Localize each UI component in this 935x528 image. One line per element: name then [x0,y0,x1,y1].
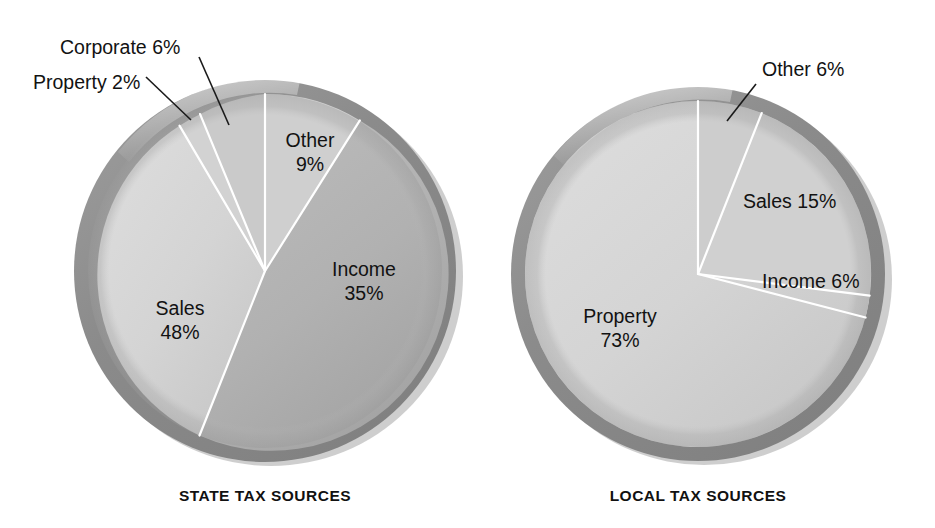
left-label-sales-value: 48% [160,321,199,343]
right-chart-title: LOCAL TAX SOURCES [610,487,787,504]
left-label-other-name: Other [286,129,335,151]
right-label-sales: Sales 15% [743,190,836,212]
two-pie-chart-figure: Other 9% Income 35% Sales 48% Corporate … [0,0,935,528]
left-callout-property-label: Property 2% [33,71,140,93]
right-pie-chart: Sales 15% Income 6% Property 73% Other 6… [511,58,892,504]
left-label-sales-name: Sales [156,297,205,319]
figure-svg: Other 9% Income 35% Sales 48% Corporate … [0,0,935,528]
left-label-other-value: 9% [296,153,324,175]
right-label-sales-text: Sales 15% [743,190,836,212]
right-label-property-name: Property [583,305,657,327]
right-callout-other-label: Other 6% [762,58,844,80]
left-label-income-value: 35% [344,282,383,304]
left-callout-corporate-label: Corporate 6% [60,36,180,58]
left-pie-chart: Other 9% Income 35% Sales 48% Corporate … [33,36,463,504]
left-chart-title: STATE TAX SOURCES [179,487,351,504]
left-label-income-name: Income [332,258,396,280]
right-label-income: Income 6% [762,270,860,292]
right-label-income-text: Income 6% [762,270,860,292]
right-label-property-value: 73% [600,329,639,351]
